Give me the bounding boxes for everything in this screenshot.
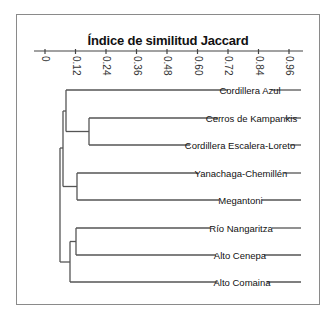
tick-label: 0.36 [132,56,143,76]
leaf-label-cordillera-escalera-loreto: Cordillera Escalera-Loreto [185,140,295,151]
leaf-label-megantoni: Megantoni [218,195,262,206]
leaf-label-alto-cenepa: Alto Cenepa [214,250,267,261]
x-axis [34,49,303,54]
leaf-labels: Cordillera Azul Cerros de Kampankis Cord… [185,85,298,288]
dendrogram-chart: 0 0.12 0.24 0.36 0.48 0.60 0.72 0.84 0.9… [0,0,336,322]
tick-label: 0.72 [223,56,234,76]
tick-label: 0 [40,56,51,62]
tick-label: 0.60 [193,56,204,76]
leaf-label-cerros-de-kampankis: Cerros de Kampankis [206,113,298,124]
tick-label: 0.12 [71,56,82,76]
tick-label: 0.96 [284,56,295,76]
tick-labels: 0 0.12 0.24 0.36 0.48 0.60 0.72 0.84 0.9… [40,56,295,76]
tick-label: 0.48 [162,56,173,76]
leaf-label-yanachaga-chemillen: Yanachaga-Chemillén [195,168,288,179]
leaf-label-alto-comaina: Alto Comaina [213,277,271,288]
leaf-label-cordillera-azul: Cordillera Azul [219,85,280,96]
tick-label: 0.24 [101,56,112,76]
leaf-label-rio-nangaritza: Río Nangaritza [209,223,273,234]
tick-label: 0.84 [254,56,265,76]
